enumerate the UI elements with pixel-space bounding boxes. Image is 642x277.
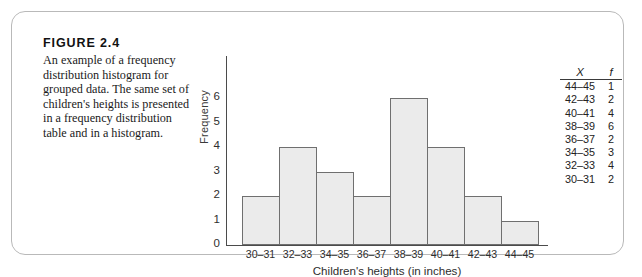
cell-f: 4 (600, 106, 622, 119)
cell-x: 34–35 (560, 146, 600, 159)
y-tick-label: 2 (200, 188, 220, 200)
cell-x: 40–41 (560, 106, 600, 119)
cell-f: 6 (600, 120, 622, 133)
table-row: 32–334 (560, 159, 622, 172)
y-tick-label: 5 (200, 115, 220, 127)
y-axis-line (226, 56, 227, 246)
histogram-bar (390, 98, 428, 245)
figure-caption: An example of a frequency distribution h… (43, 53, 193, 141)
y-tick-label: 4 (200, 139, 220, 151)
cell-f: 2 (600, 133, 622, 146)
cell-f: 2 (600, 93, 622, 106)
histogram-bar (279, 147, 317, 245)
cell-x: 38–39 (560, 120, 600, 133)
histogram-chart: Frequency 0123456 30–3132–3334–3536–3738… (198, 48, 548, 263)
histogram-bar (501, 221, 539, 246)
y-tick-label: 0 (200, 237, 220, 249)
histogram-bar (427, 147, 465, 245)
cell-f: 2 (600, 172, 622, 185)
figure-frame: FIGURE 2.4 An example of a frequency dis… (11, 11, 624, 255)
cell-f: 1 (600, 80, 622, 94)
figure-number: FIGURE 2.4 (43, 36, 193, 50)
cell-x: 42–43 (560, 93, 600, 106)
table-row: 40–414 (560, 106, 622, 119)
y-tick-label: 3 (200, 164, 220, 176)
cell-x: 36–37 (560, 133, 600, 146)
cell-x: 32–33 (560, 159, 600, 172)
table-row: 30–312 (560, 172, 622, 185)
table-row: 34–353 (560, 146, 622, 159)
histogram-bar (242, 196, 280, 245)
cell-x: 44–45 (560, 80, 600, 94)
histogram-bar (316, 172, 354, 246)
y-tick-label: 1 (200, 213, 220, 225)
cell-f: 3 (600, 146, 622, 159)
table-row: 42–432 (560, 93, 622, 106)
table-row: 36–372 (560, 133, 622, 146)
x-axis-title: Children's heights (in inches) (226, 264, 548, 277)
table-body: 44–45142–43240–41438–39636–37234–35332–3… (560, 80, 622, 186)
frequency-distribution-table: X f 44–45142–43240–41438–39636–37234–353… (560, 66, 626, 186)
x-axis-line (226, 245, 548, 246)
caption-block: FIGURE 2.4 An example of a frequency dis… (43, 36, 193, 141)
histogram-bar (353, 196, 391, 245)
x-tick-label: 44–45 (498, 248, 542, 260)
cell-x: 30–31 (560, 172, 600, 185)
table-header-row: X f (560, 66, 622, 80)
cell-f: 4 (600, 159, 622, 172)
y-tick-label: 6 (200, 90, 220, 102)
histogram-bar (464, 196, 502, 245)
column-header-f: f (600, 66, 622, 80)
table-row: 44–451 (560, 80, 622, 94)
table-row: 38–396 (560, 120, 622, 133)
column-header-x: X (560, 66, 600, 80)
